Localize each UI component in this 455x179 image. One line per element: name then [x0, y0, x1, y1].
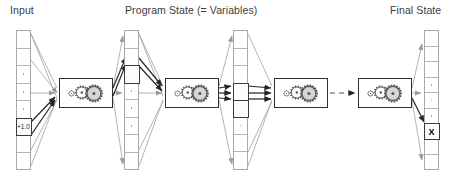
cell-final-state-vector-1: [425, 47, 438, 63]
cell-state-vector-2-0: [234, 31, 247, 49]
cell-state-vector-2-7: [234, 152, 247, 169]
cell-final-state-vector-5: [425, 109, 438, 125]
gearbox-step-4: [358, 78, 412, 108]
cell-state-vector-2-2: [234, 66, 247, 84]
cell-final-state-vector-6: X: [424, 123, 440, 140]
cell-state-vector-1-6: [125, 135, 138, 153]
cell-final-state-vector-0: [425, 31, 438, 47]
cell-value: +1.0: [17, 124, 31, 131]
cell-state-vector-1-2: [124, 65, 140, 84]
cell-state-vector-2-5: [234, 117, 247, 135]
cell-input-vector-4: [17, 101, 30, 119]
gear-icon: [60, 79, 112, 107]
cell-final-state-vector-7: [425, 139, 438, 155]
cell-state-vector-1-1: [125, 49, 138, 67]
cell-state-vector-1-0: [125, 31, 138, 49]
cell-final-state-vector-4: [425, 93, 438, 109]
column-final-state-vector: X: [424, 30, 439, 170]
cell-input-vector-2: [17, 66, 30, 84]
gearbox-step-2: [165, 78, 219, 108]
cell-final-state-vector-8: [425, 155, 438, 170]
cell-input-vector-0: [17, 31, 30, 49]
gear-icon: [166, 79, 218, 107]
cell-state-vector-1-5: [125, 118, 138, 136]
label-program-state: Program State (= Variables): [125, 4, 257, 16]
cell-value: X: [425, 127, 439, 136]
cell-input-vector-3: [17, 84, 30, 102]
cell-input-vector-5: +1.0: [16, 118, 32, 137]
cell-input-vector-1: [17, 49, 30, 67]
label-input: Input: [10, 4, 34, 16]
column-state-vector-2: [233, 30, 248, 170]
column-state-vector-1: [124, 30, 139, 170]
cell-final-state-vector-3: [425, 78, 438, 94]
cell-input-vector-6: [17, 135, 30, 153]
cell-state-vector-1-4: [125, 100, 138, 118]
diagram-canvas: Input Program State (= Variables) Final …: [0, 0, 455, 179]
cell-state-vector-1-7: [125, 153, 138, 170]
gear-icon: [359, 79, 411, 107]
cell-state-vector-1-3: [125, 83, 138, 101]
cell-state-vector-2-4: [233, 100, 249, 119]
cell-state-vector-2-1: [234, 49, 247, 67]
label-final-state: Final State: [390, 4, 441, 16]
gearbox-step-3: [274, 78, 328, 108]
gearbox-step-1: [59, 78, 113, 108]
cell-final-state-vector-2: [425, 62, 438, 78]
cell-state-vector-2-6: [234, 135, 247, 153]
gear-icon: [275, 79, 327, 107]
cell-input-vector-7: [17, 153, 30, 170]
column-input-vector: +1.0: [16, 30, 31, 170]
